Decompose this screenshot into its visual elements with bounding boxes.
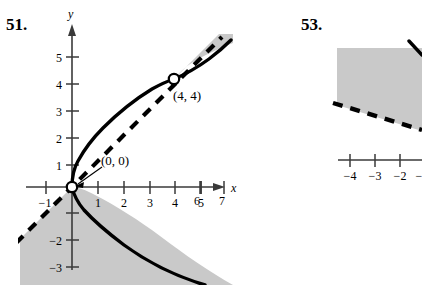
graph-53: −4 −3 −2 − xyxy=(0,0,422,285)
x-tick-labels-53: −4 −3 −2 − xyxy=(344,169,422,183)
svg-text:−: − xyxy=(416,169,422,183)
svg-text:−2: −2 xyxy=(394,169,407,183)
shaded-region-53 xyxy=(337,48,422,131)
svg-text:−3: −3 xyxy=(369,169,382,183)
textbook-figure-page: 51. xyxy=(0,0,422,285)
svg-text:−4: −4 xyxy=(344,169,357,183)
